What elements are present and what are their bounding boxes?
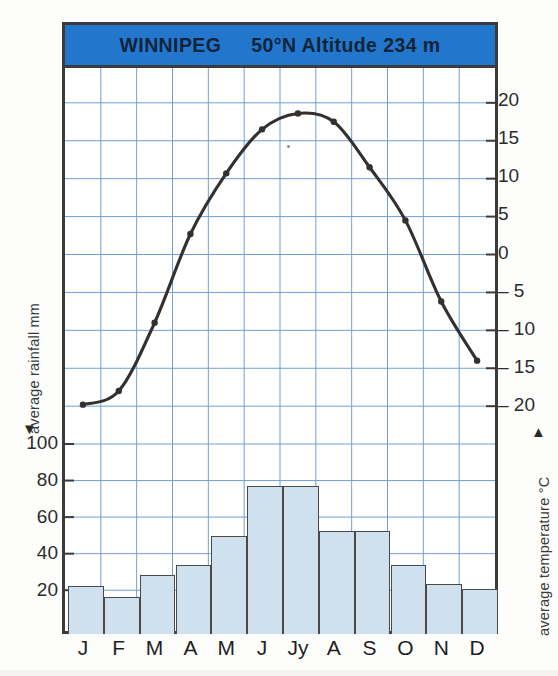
temperature-tick-mm20: – 20 xyxy=(498,394,535,416)
month-label-5: J xyxy=(257,636,268,660)
month-label-3: A xyxy=(183,636,197,660)
temperature-tick-mm10: – 10 xyxy=(498,318,535,340)
rainfall-axis-labels: 10080604020 xyxy=(0,0,58,676)
rainfall-bar xyxy=(104,597,140,634)
rainfall-bar xyxy=(355,531,391,634)
station-name: WINNIPEG xyxy=(120,34,222,57)
rainfall-bar xyxy=(391,565,427,634)
rainfall-bar xyxy=(247,486,283,634)
rainfall-bar xyxy=(462,589,498,634)
rainfall-bar xyxy=(211,536,247,634)
rainfall-bar xyxy=(68,586,104,634)
temperature-tick-10: 10 xyxy=(498,165,519,187)
temperature-tick-mm15: – 15 xyxy=(498,356,535,378)
month-label-4: M xyxy=(218,636,236,660)
temperature-axis-labels: 20151050– 5– 10– 15– 20 xyxy=(498,0,558,676)
rainfall-bar xyxy=(176,565,212,634)
rainfall-bar xyxy=(426,584,462,634)
station-coords-altitude: 50°N Altitude 234 m xyxy=(251,34,440,57)
month-label-0: J xyxy=(78,636,89,660)
rainfall-bar xyxy=(319,531,355,634)
month-axis-labels: JFMAMJJyASOND xyxy=(62,636,498,670)
rainfall-bar xyxy=(140,575,176,634)
month-label-7: A xyxy=(327,636,341,660)
temperature-tick-20: 20 xyxy=(498,89,519,111)
month-label-1: F xyxy=(112,636,125,660)
temperature-tick-15: 15 xyxy=(498,127,519,149)
rainfall-tick-80: 80 xyxy=(12,469,58,491)
page-edge xyxy=(0,670,558,676)
month-label-11: D xyxy=(469,636,484,660)
scan-speck xyxy=(287,145,290,148)
month-label-9: O xyxy=(397,636,413,660)
rainfall-tick-20: 20 xyxy=(12,579,58,601)
month-label-2: M xyxy=(146,636,164,660)
rainfall-tick-100: 100 xyxy=(12,432,58,454)
rainfall-tick-60: 60 xyxy=(12,506,58,528)
rainfall-bar xyxy=(283,486,319,634)
month-label-8: S xyxy=(363,636,377,660)
climate-graph: average rainfall mm ▼ average temperatur… xyxy=(0,0,558,676)
rainfall-bars xyxy=(65,68,495,631)
temperature-tick-5: 5 xyxy=(498,203,509,225)
temperature-tick-mm5: – 5 xyxy=(498,280,524,302)
plot-area: WINNIPEG 50°N Altitude 234 m xyxy=(62,22,498,634)
station-header-band: WINNIPEG 50°N Altitude 234 m xyxy=(65,25,495,68)
temperature-tick-0: 0 xyxy=(498,242,509,264)
month-label-6: Jy xyxy=(287,636,308,660)
month-label-10: N xyxy=(434,636,449,660)
rainfall-tick-40: 40 xyxy=(12,542,58,564)
